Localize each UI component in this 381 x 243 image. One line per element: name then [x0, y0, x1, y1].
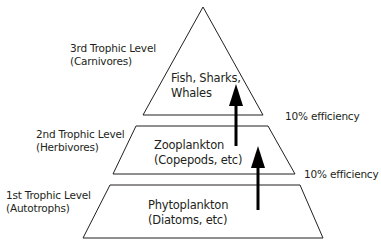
first-level-subtitle: (Autotrophs): [6, 202, 91, 215]
third-level-label: 3rd Trophic Level (Carnivores): [70, 42, 156, 68]
third-level-title: 3rd Trophic Level: [70, 42, 156, 55]
first-level-title: 1st Trophic Level: [6, 189, 91, 202]
upper-efficiency-label: 10% efficiency: [285, 110, 359, 123]
first-level-label: 1st Trophic Level (Autotrophs): [6, 189, 91, 215]
second-level-content-line2: (Copepods, etc): [154, 153, 242, 168]
third-level-content: Fish, Sharks, Whales: [171, 71, 241, 101]
second-level-title: 2nd Trophic Level: [36, 128, 124, 141]
third-level-content-line2: Whales: [171, 86, 241, 101]
first-level-content-line1: Phytoplankton: [148, 198, 228, 213]
second-level-subtitle: (Herbivores): [36, 141, 124, 154]
second-level-label: 2nd Trophic Level (Herbivores): [36, 128, 124, 154]
lower-efficiency-label: 10% efficiency: [304, 168, 378, 181]
second-level-content: Zooplankton (Copepods, etc): [154, 138, 242, 168]
first-level-content: Phytoplankton (Diatoms, etc): [148, 198, 228, 228]
third-level-subtitle: (Carnivores): [70, 55, 156, 68]
first-level-content-line2: (Diatoms, etc): [148, 213, 228, 228]
second-level-content-line1: Zooplankton: [154, 138, 242, 153]
third-level-content-line1: Fish, Sharks,: [171, 71, 241, 86]
